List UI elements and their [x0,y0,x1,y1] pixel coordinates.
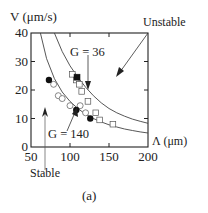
annotations: V (μm/s) Λ (μm) Unstable Stable G = 36 G… [10,9,187,203]
unstable-arrow [120,33,148,72]
open-square-marker [93,110,99,116]
x-tick-label: 200 [138,149,158,164]
open-square-marker [110,121,116,127]
open-square-marker [85,99,91,105]
y-tick-label: 30 [15,54,28,69]
g36-arrowhead-icon [85,81,91,90]
open-square-marker [79,89,85,95]
open-square-marker [97,117,103,123]
y-axis-title: V (μm/s) [10,9,57,24]
data-markers [46,72,116,127]
x-axis-title: Λ (μm) [152,134,187,148]
open-square-marker [77,82,83,88]
x-tick-label: 150 [99,149,119,164]
stability-chart: 50100150200010203040 V (μm/s) Λ (μm) Uns… [0,0,208,213]
open-circle-marker [51,81,57,87]
open-circle-marker [83,110,89,116]
g140-label: G = 140 [48,127,89,141]
open-circle-marker [67,103,73,109]
y-tick-label: 0 [22,139,29,154]
unstable-label: Unstable [143,15,186,29]
filled-circle-marker [87,115,93,121]
filled-circle-marker [46,77,52,83]
y-tick-label: 40 [15,25,28,40]
stable-label: Stable [30,166,60,180]
g36-label: G = 36 [70,45,105,59]
y-tick-label: 20 [15,82,28,97]
filled-square-marker [74,74,80,80]
x-tick-label: 100 [60,149,80,164]
panel-label: (a) [82,188,96,203]
open-circle-marker [59,96,65,102]
y-tick-label: 10 [15,111,28,126]
